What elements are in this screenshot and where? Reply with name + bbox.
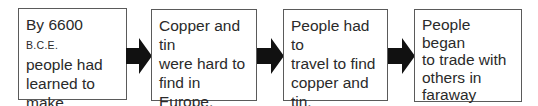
step-2-text: Copper and tin were hard to find in Euro… [159, 17, 245, 106]
arrow-right-icon [257, 38, 284, 74]
step-box-2: Copper and tin were hard to find in Euro… [151, 9, 257, 101]
step-1-text-post: people had learned to make bronze. [26, 56, 103, 106]
step-1-text-pre: By 6600 [26, 16, 83, 33]
step-1-era: B.C.E. [26, 39, 58, 51]
step-box-1: By 6600 B.C.E. people had learned to mak… [18, 8, 127, 100]
step-4-text: People began to trade with others in far… [422, 16, 506, 106]
arrow-right-icon [126, 38, 152, 74]
step-box-4: People began to trade with others in far… [414, 9, 522, 102]
step-3-text: People had to travel to find copper and … [291, 17, 375, 106]
arrow-right-icon [388, 38, 415, 74]
step-box-3: People had to travel to find copper and … [283, 9, 388, 101]
